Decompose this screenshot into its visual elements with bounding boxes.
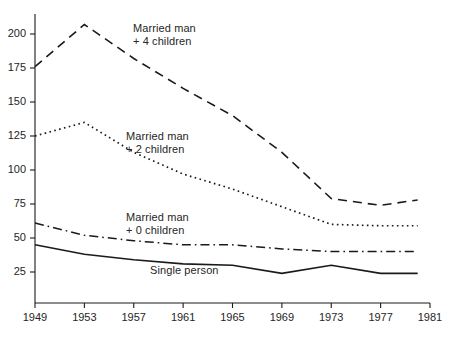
- series-line-married-2-children: [35, 122, 418, 225]
- series-line-single-person: [35, 245, 418, 274]
- y-tick-label: 50: [14, 231, 26, 243]
- x-tick-label: 1965: [220, 311, 244, 323]
- y-tick-label: 150: [8, 95, 26, 107]
- x-tick-label: 1953: [72, 311, 96, 323]
- series-label-line2: + 0 children: [126, 224, 189, 237]
- line-chart: 255075100125150175200 194919531957196119…: [0, 0, 451, 348]
- x-tick-label: 1957: [122, 311, 146, 323]
- x-axis-tick-labels: 194919531957196119651969197319771981: [23, 311, 442, 323]
- y-axis-tick-labels: 255075100125150175200: [8, 27, 26, 277]
- y-tick-label: 200: [8, 27, 26, 39]
- series-label-line1: Married man: [133, 22, 196, 35]
- series-label-married-4-children: Married man + 4 children: [133, 22, 196, 48]
- series-label-line2: + 2 children: [126, 143, 189, 156]
- y-axis-ticks: [30, 34, 35, 272]
- x-tick-label: 1961: [171, 311, 195, 323]
- series-label-single-person: Single person: [150, 264, 219, 277]
- series-label-line2: + 4 children: [133, 35, 196, 48]
- y-tick-label: 75: [14, 197, 26, 209]
- series-label-married-2-children: Married man + 2 children: [126, 130, 189, 156]
- x-axis-ticks: [35, 303, 430, 308]
- series-label-married-0-children: Married man + 0 children: [126, 211, 189, 237]
- x-tick-label: 1949: [23, 311, 47, 323]
- series-line-married-0-children: [35, 223, 418, 252]
- x-tick-label: 1969: [270, 311, 294, 323]
- y-tick-label: 125: [8, 129, 26, 141]
- x-tick-label: 1981: [418, 311, 442, 323]
- y-tick-label: 100: [8, 163, 26, 175]
- data-series-group: [35, 24, 418, 273]
- y-tick-label: 175: [8, 61, 26, 73]
- chart-plot-area: 255075100125150175200 194919531957196119…: [0, 0, 451, 348]
- series-line-married-4-children: [35, 24, 418, 205]
- y-tick-label: 25: [14, 265, 26, 277]
- series-label-line1: Single person: [150, 264, 219, 277]
- x-tick-label: 1977: [368, 311, 392, 323]
- series-label-line1: Married man: [126, 130, 189, 143]
- series-label-line1: Married man: [126, 211, 189, 224]
- x-tick-label: 1973: [319, 311, 343, 323]
